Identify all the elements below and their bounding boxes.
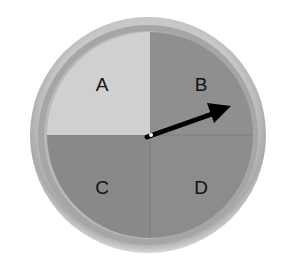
section-b-label: B	[195, 74, 208, 95]
spinner-diagram: A B C D	[0, 0, 281, 273]
pivot-icon	[149, 133, 153, 137]
section-c-label: C	[95, 177, 109, 198]
section-a-label: A	[96, 74, 109, 95]
section-d-label: D	[194, 177, 208, 198]
